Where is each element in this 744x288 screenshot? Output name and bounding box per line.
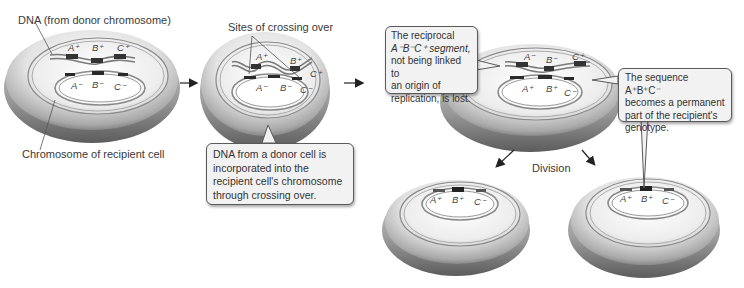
arrow-division-right (582, 150, 594, 164)
gene-label: B⁺ (641, 194, 652, 204)
gene-label: A⁺ (430, 195, 441, 205)
gene-label: A⁺ (256, 52, 267, 62)
gene-label: C⁺ (310, 69, 322, 79)
figure-stage: DNA (from donor chromosome) Chromosome o… (0, 0, 744, 288)
gene-label: A⁺ (522, 84, 533, 94)
label-crossing-sites: Sites of crossing over (228, 21, 333, 34)
label-recipient-chromosome: Chromosome of recipient cell (22, 148, 164, 161)
gene-label: C⁺ (117, 43, 129, 53)
callout-line: A⁻B⁻C⁺ segment, (391, 43, 472, 56)
callout-line: DNA from a donor cell is (213, 148, 347, 162)
gene-label: B⁻ (546, 55, 557, 65)
gene-label: B⁻ (92, 80, 103, 90)
gene-label: C⁻ (114, 82, 126, 92)
gene-label: C⁻ (662, 196, 674, 206)
gene-label: C⁻ (474, 197, 486, 207)
callout-line: replication, is lost. (391, 93, 472, 106)
arrow-division-left (497, 150, 514, 166)
callout-line: through crossing over. (213, 189, 347, 203)
label-donor-dna: DNA (from donor chromosome) (18, 14, 171, 27)
gene-label: C⁺ (572, 52, 584, 62)
gene-label: A⁺ (68, 43, 79, 53)
callout-line: becomes a permanent (625, 97, 725, 110)
callout-line: incorporated into the (213, 162, 347, 176)
callout-line: The sequence A⁺B⁺C⁻ (625, 72, 725, 97)
callout-line: genotype. (625, 122, 725, 135)
diagram-graphics (0, 0, 744, 288)
gene-label: A⁻ (71, 81, 82, 91)
callout-line: not being linked to (391, 55, 472, 80)
callout-crossing-over: DNA from a donor cell is incorporated in… (206, 143, 354, 205)
callout-line: recipient cell's chromosome (213, 175, 347, 189)
gene-label: B⁺ (452, 195, 463, 205)
gene-label: B⁻ (280, 83, 291, 93)
gene-label: C⁻ (300, 85, 312, 95)
callout-line: The reciprocal (391, 30, 472, 43)
gene-label: B⁺ (92, 43, 103, 53)
gene-label: C⁻ (564, 88, 576, 98)
gene-label: B⁺ (546, 84, 557, 94)
callout-permanent-genotype: The sequence A⁺B⁺C⁻ becomes a permanent … (618, 68, 732, 122)
gene-label: B⁺ (290, 56, 301, 66)
label-division: Division (532, 162, 571, 175)
callout-line: part of the recipient's (625, 110, 725, 123)
gene-label: A⁻ (524, 52, 535, 62)
callout-lost-segment: The reciprocal A⁻B⁻C⁺ segment, not being… (385, 26, 478, 94)
callout-line: an origin of (391, 80, 472, 93)
gene-label: A⁺ (620, 194, 631, 204)
gene-label: A⁻ (256, 83, 267, 93)
